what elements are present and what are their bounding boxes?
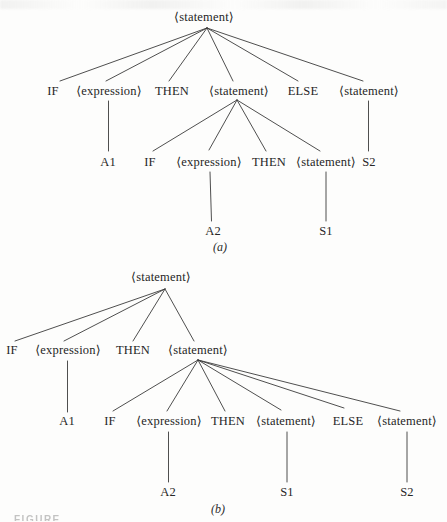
tree-b-root-statement: ⟨statement⟩ <box>131 269 191 285</box>
tree-a-leaf-a2: A2 <box>205 224 221 239</box>
tree-a-inner-if: IF <box>144 155 156 170</box>
tree-b-inner-inner-statement: ⟨statement⟩ <box>256 413 316 429</box>
tree-b-inner-statement: ⟨statement⟩ <box>168 342 228 358</box>
tree-a-inner-inner-statement: ⟨statement⟩ <box>296 154 356 170</box>
tree-b-inner-if: IF <box>104 414 116 429</box>
panel-a-caption: (a) <box>213 240 227 255</box>
tree-a-else-statement: ⟨statement⟩ <box>339 83 399 99</box>
tree-a-then: THEN <box>155 84 189 99</box>
tree-a-leaf-a1: A1 <box>100 155 116 170</box>
tree-b-leaf-a2: A2 <box>160 485 176 500</box>
scanned-figure-page: ⟨statement⟩ IF ⟨expression⟩ THEN ⟨statem… <box>0 0 447 522</box>
tree-b-leaf-s2: S2 <box>400 485 414 500</box>
cropped-caption-fragment: FIGURE <box>14 515 110 521</box>
tree-a-inner-expression: ⟨expression⟩ <box>176 154 242 170</box>
tree-b-leaf-s1: S1 <box>280 485 294 500</box>
tree-b-inner-expression: ⟨expression⟩ <box>136 413 202 429</box>
tree-a-else: ELSE <box>288 84 319 99</box>
tree-b-if: IF <box>6 343 18 358</box>
panel-b-caption: (b) <box>211 502 225 517</box>
tree-b-leaf-a1: A1 <box>59 414 75 429</box>
tree-b-else-statement: ⟨statement⟩ <box>377 413 437 429</box>
tree-a-if: IF <box>47 84 59 99</box>
tree-a-expression: ⟨expression⟩ <box>76 83 142 99</box>
tree-a-root-statement: ⟨statement⟩ <box>174 9 234 25</box>
tree-b-then: THEN <box>116 343 150 358</box>
tree-edges <box>0 0 447 522</box>
tree-a-leaf-s2: S2 <box>362 155 376 170</box>
tree-a-inner-then: THEN <box>252 155 286 170</box>
tree-b-expression: ⟨expression⟩ <box>35 342 101 358</box>
tree-a-inner-statement: ⟨statement⟩ <box>209 83 269 99</box>
tree-b-inner-then: THEN <box>211 414 245 429</box>
tree-b-else: ELSE <box>333 414 364 429</box>
tree-a-leaf-s1: S1 <box>319 224 333 239</box>
